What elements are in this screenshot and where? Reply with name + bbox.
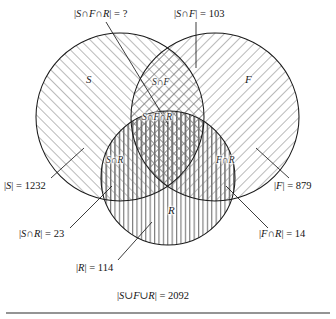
callout-fr-expr: F∩R — [261, 228, 281, 239]
callout-sr-intersection: |S∩R| = 23 — [19, 228, 64, 239]
callout-f-value: 879 — [296, 180, 312, 191]
callout-r-cardinality: |R| = 114 — [76, 262, 113, 273]
callout-f-equals: = — [285, 180, 296, 191]
callout-sf-intersection: |S∩F| = 103 — [174, 8, 224, 19]
set-label-r: R — [168, 205, 175, 217]
callout-sr-expr: S∩R — [21, 228, 40, 239]
callout-sf-value: 103 — [209, 8, 225, 19]
region-label-sfr: S∩F∩R — [142, 113, 172, 123]
callout-union-value: 2092 — [168, 290, 189, 301]
region-label-sf: S∩F — [152, 78, 169, 88]
region-label-sr: S∩R — [106, 156, 123, 166]
callout-fr-equals: = — [284, 228, 295, 239]
callout-union-cardinality: |S∪F∪R| = 2092 — [117, 290, 189, 301]
venn-figure: |S∩F∩R| = ? |S∩F| = 103 |S| = 1232 |F| =… — [0, 0, 336, 319]
region-label-fr: F∩R — [216, 156, 234, 166]
callout-sr-equals: = — [42, 228, 53, 239]
callout-triple-equals: = — [111, 8, 122, 19]
callout-union-equals: = — [157, 290, 168, 301]
callout-triple-intersection: |S∩F∩R| = ? — [74, 8, 127, 19]
callout-r-value: 114 — [98, 262, 113, 273]
callout-sr-value: 23 — [54, 228, 65, 239]
callout-fr-intersection: |F∩R| = 14 — [259, 228, 305, 239]
callout-sf-expr: S∩F — [176, 8, 195, 19]
callout-s-value: 1232 — [25, 180, 46, 191]
callout-s-cardinality: |S| = 1232 — [4, 180, 46, 191]
callout-sf-equals: = — [197, 8, 208, 19]
callout-s-equals: = — [13, 180, 24, 191]
callout-triple-expr: S∩F∩R — [76, 8, 109, 19]
callout-fr-value: 14 — [295, 228, 306, 239]
set-label-s: S — [86, 74, 92, 86]
set-label-f: F — [245, 74, 252, 86]
callout-r-equals: = — [87, 262, 98, 273]
callout-triple-value: ? — [123, 8, 128, 19]
callout-union-expr: S∪F∪R — [119, 290, 155, 301]
callout-f-cardinality: |F| = 879 — [274, 180, 312, 191]
venn-diagram-svg — [0, 0, 336, 319]
